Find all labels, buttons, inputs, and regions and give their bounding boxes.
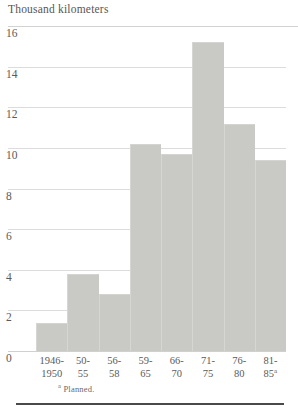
bar bbox=[224, 124, 255, 352]
x-axis-tick-label: 59-65 bbox=[130, 354, 161, 380]
chart-axis-title: Thousand kilometers bbox=[8, 3, 109, 15]
x-axis-tick-label: 56-58 bbox=[99, 354, 130, 380]
x-label-line2: 55 bbox=[67, 367, 98, 380]
x-axis-tick-label: 50-55 bbox=[67, 354, 98, 380]
y-axis-tick-label: 16 bbox=[6, 27, 30, 40]
y-axis-tick-label: 14 bbox=[6, 68, 30, 81]
x-label-superscript: a bbox=[274, 367, 277, 375]
bar-column bbox=[192, 26, 223, 351]
y-axis-tick-label: 10 bbox=[6, 149, 30, 162]
y-axis-tick-label: 8 bbox=[6, 190, 30, 203]
bar-column bbox=[161, 26, 192, 351]
bar bbox=[255, 160, 286, 351]
bar bbox=[67, 274, 98, 351]
x-label-line1: 71- bbox=[201, 355, 215, 366]
bar-column bbox=[36, 26, 67, 351]
bar-column bbox=[67, 26, 98, 351]
x-label-line1: 76- bbox=[232, 355, 246, 366]
x-axis-tick-label: 81-85a bbox=[255, 354, 286, 380]
y-axis-tick-label: 4 bbox=[6, 271, 30, 284]
x-label-line1: 81- bbox=[263, 355, 277, 366]
x-label-line2: 75 bbox=[192, 367, 223, 380]
x-label-line2: 65 bbox=[130, 367, 161, 380]
y-axis-tick-label: 6 bbox=[6, 230, 30, 243]
x-axis-labels: 1946-195050-5556-5859-6566-7071-7576-808… bbox=[36, 354, 286, 380]
y-axis-tick-label: 12 bbox=[6, 108, 30, 121]
chart-figure: Thousand kilometers 1614121086420 1946-1… bbox=[0, 0, 298, 415]
bar-column bbox=[255, 26, 286, 351]
gridline-0 bbox=[8, 351, 286, 352]
x-axis-tick-label: 71-75 bbox=[192, 354, 223, 380]
x-label-line2: 85a bbox=[255, 367, 286, 380]
y-axis-tick-label: 0 bbox=[6, 352, 30, 365]
footnote-text: Planned. bbox=[63, 384, 94, 394]
bar-series bbox=[36, 26, 286, 351]
x-label-line1: 1946- bbox=[39, 355, 64, 366]
x-label-line1: 56- bbox=[107, 355, 121, 366]
x-axis-tick-label: 76-80 bbox=[224, 354, 255, 380]
bar-column bbox=[130, 26, 161, 351]
chart-footnote: a Planned. bbox=[58, 384, 95, 394]
x-label-line2: 80 bbox=[224, 367, 255, 380]
x-label-line2: 70 bbox=[161, 367, 192, 380]
x-label-line2: 58 bbox=[99, 367, 130, 380]
footnote-marker: a bbox=[58, 382, 61, 389]
x-axis-tick-label: 66-70 bbox=[161, 354, 192, 380]
bottom-rule bbox=[16, 403, 284, 405]
x-axis-tick-label: 1946-1950 bbox=[36, 354, 67, 380]
bar bbox=[161, 154, 192, 351]
bar bbox=[36, 323, 67, 351]
bar-column bbox=[99, 26, 130, 351]
plot-area: 1614121086420 bbox=[36, 26, 286, 351]
x-label-line1: 66- bbox=[170, 355, 184, 366]
bar bbox=[130, 144, 161, 351]
x-label-line2: 1950 bbox=[36, 367, 67, 380]
x-label-line1: 50- bbox=[76, 355, 90, 366]
x-label-line1: 59- bbox=[138, 355, 152, 366]
y-axis-tick-label: 2 bbox=[6, 311, 30, 324]
bar bbox=[99, 294, 130, 351]
bar bbox=[192, 42, 223, 351]
bar-column bbox=[224, 26, 255, 351]
